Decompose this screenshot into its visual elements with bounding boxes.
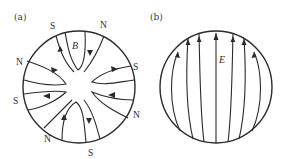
pole-label-bottom-right: S	[88, 148, 93, 158]
pole-label-lower-left: S	[13, 96, 18, 106]
field-line-top-right	[84, 36, 104, 72]
field-symbol-B: B	[72, 40, 78, 51]
arrow-icon	[43, 93, 50, 99]
arrow-icon	[231, 36, 236, 42]
arrow-icon	[58, 46, 64, 52]
pole-label-lower-right: N	[133, 110, 140, 120]
field-line-right-3	[252, 52, 261, 131]
arrow-icon	[87, 50, 93, 56]
arrow-icon	[214, 33, 219, 40]
panel-a: (a) S N N S S N N S B	[13, 12, 140, 158]
field-line-lower-left	[24, 91, 66, 110]
panel-b-label: (b)	[150, 12, 163, 22]
field-line-right-1	[228, 34, 233, 142]
arrow-icon	[175, 52, 180, 58]
pole-label-top-left: S	[50, 21, 55, 31]
field-symbol-E: E	[218, 54, 225, 65]
panel-b: (b) E	[150, 12, 272, 143]
panel-a-label: (a)	[14, 12, 26, 22]
panel-a-boundary-circle	[23, 31, 135, 143]
field-line-left-2	[187, 38, 193, 139]
pole-label-top-right: N	[100, 20, 107, 30]
figure: (a) S N N S S N N S B	[0, 0, 286, 159]
pole-label-upper-right: S	[133, 62, 138, 72]
field-line-bottom	[62, 102, 86, 142]
pole-label-bottom-left: N	[44, 134, 51, 144]
arrow-icon	[197, 36, 202, 42]
arrow-icon	[111, 66, 118, 72]
arrow-icon	[86, 118, 92, 124]
pole-label-upper-left: N	[16, 57, 23, 67]
field-line-right-2	[239, 38, 245, 139]
field-line-bottom-right-outer	[84, 100, 100, 139]
arrow-icon	[51, 67, 58, 73]
field-line-upper-left	[24, 61, 66, 85]
field-line-left-1	[199, 34, 204, 142]
field-line-left-3	[172, 52, 181, 131]
